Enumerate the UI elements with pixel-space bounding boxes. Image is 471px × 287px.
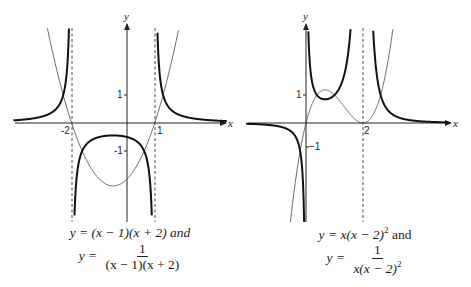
- right-curve-reciprocal-right-branch: [373, 31, 448, 123]
- left-tick-label-1: 1: [157, 125, 163, 136]
- right-curve-reciprocal-middle-branch: [308, 29, 350, 99]
- right-graph: y x 2 1 −1: [246, 10, 458, 234]
- right-tick-label-yneg1: −1: [309, 141, 321, 152]
- right-caption-line1: y = x(x − 2)2 and: [290, 225, 440, 242]
- left-caption: y = (x − 1)(x + 2) and y = 1 (x − 1)(x +…: [40, 225, 220, 273]
- left-graph: y x -2 1 1 -1: [13, 10, 233, 222]
- right-tick-label-y1: 1: [296, 89, 302, 100]
- left-caption-fraction: 1 (x − 1)(x + 2): [104, 241, 182, 273]
- left-caption-line1: y = (x − 1)(x + 2) and: [40, 225, 220, 241]
- right-caption-fraction: 1 x(x − 2)2: [351, 242, 403, 276]
- right-tick-label-2: 2: [364, 125, 370, 136]
- left-y-label: y: [123, 10, 129, 22]
- left-tick-label-yneg1: -1: [114, 145, 123, 156]
- left-tick-label-y1: 1: [117, 89, 123, 100]
- right-curve-reciprocal-negative-branch: [246, 124, 304, 232]
- left-curve-reciprocal-left-branch: [13, 29, 69, 121]
- left-x-label: x: [227, 117, 233, 129]
- right-caption: y = x(x − 2)2 and y = 1 x(x − 2)2: [290, 225, 440, 276]
- left-caption-line2: y = 1 (x − 1)(x + 2): [40, 241, 220, 273]
- right-caption-line2: y = 1 x(x − 2)2: [290, 242, 440, 276]
- right-y-label: y: [302, 10, 308, 22]
- left-tick-label-neg2: -2: [61, 125, 70, 136]
- right-x-label: x: [452, 117, 458, 129]
